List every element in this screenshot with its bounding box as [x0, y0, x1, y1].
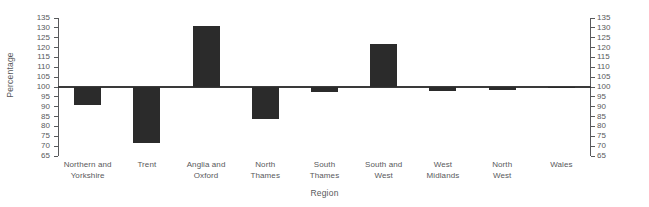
bar-wales	[548, 87, 575, 88]
y-tick-label-l-115: 115	[28, 53, 50, 61]
bar-north-west	[489, 87, 516, 90]
bar-north-thames	[252, 87, 279, 119]
y-tick-l-120	[54, 47, 58, 48]
y-tick-label-l-125: 125	[28, 34, 50, 42]
x-label-north-west: NorthWest	[473, 160, 532, 181]
y-tick-l-115	[54, 57, 58, 58]
y-tick-l-65	[54, 156, 58, 157]
x-label-line: North	[473, 160, 532, 171]
y-tick-label-l-110: 110	[28, 63, 50, 71]
y-tick-label-l-100: 100	[28, 83, 50, 91]
x-label-line: Wales	[532, 160, 591, 171]
y-tick-label-r-80: 80	[597, 122, 619, 130]
y-tick-label-l-130: 130	[28, 24, 50, 32]
x-label-anglia-and-oxford: Anglia andOxford	[176, 160, 235, 181]
y-tick-l-70	[54, 146, 58, 147]
chart-figure: Percentage Region 1351301251201151101051…	[0, 0, 649, 207]
y-tick-r-100	[591, 87, 595, 88]
y-tick-label-r-110: 110	[597, 63, 619, 71]
y-tick-l-85	[54, 116, 58, 117]
x-label-line: Oxford	[176, 171, 235, 182]
y-tick-label-r-70: 70	[597, 142, 619, 150]
x-label-line: Yorkshire	[58, 171, 117, 182]
y-tick-label-r-85: 85	[597, 113, 619, 121]
y-tick-label-l-65: 65	[28, 152, 50, 160]
y-tick-l-130	[54, 27, 58, 28]
y-tick-label-l-135: 135	[28, 14, 50, 22]
y-tick-label-r-90: 90	[597, 103, 619, 111]
plot-area: 13513012512011511010510095908580757065 1…	[58, 18, 591, 156]
y-tick-label-r-65: 65	[597, 152, 619, 160]
bar-south-and-west	[370, 44, 397, 87]
y-tick-r-70	[591, 146, 595, 147]
y-tick-r-85	[591, 116, 595, 117]
y-tick-l-105	[54, 77, 58, 78]
y-tick-r-130	[591, 27, 595, 28]
x-label-west-midlands: WestMidlands	[413, 160, 472, 181]
y-tick-r-135	[591, 18, 595, 19]
x-label-line: West	[473, 171, 532, 182]
y-tick-label-r-135: 135	[597, 14, 619, 22]
y-tick-label-r-120: 120	[597, 44, 619, 52]
y-tick-label-l-85: 85	[28, 113, 50, 121]
y-tick-r-65	[591, 156, 595, 157]
y-tick-r-110	[591, 67, 595, 68]
y-tick-label-r-95: 95	[597, 93, 619, 101]
y-tick-l-125	[54, 37, 58, 38]
y-tick-l-135	[54, 18, 58, 19]
y-tick-label-l-120: 120	[28, 44, 50, 52]
x-label-south-thames: SouthThames	[295, 160, 354, 181]
x-axis-title: Region	[0, 188, 649, 198]
x-label-south-and-west: South andWest	[354, 160, 413, 181]
x-label-line: Thames	[295, 171, 354, 182]
y-tick-l-75	[54, 136, 58, 137]
x-label-line: West	[413, 160, 472, 171]
y-tick-label-l-80: 80	[28, 122, 50, 130]
x-label-line: Thames	[236, 171, 295, 182]
bar-anglia-and-oxford	[193, 26, 220, 87]
y-tick-label-r-125: 125	[597, 34, 619, 42]
bar-northern-and-yorkshire	[74, 87, 101, 105]
x-label-line: Trent	[117, 160, 176, 171]
y-tick-l-95	[54, 96, 58, 97]
y-tick-r-75	[591, 136, 595, 137]
x-label-north-thames: NorthThames	[236, 160, 295, 181]
bar-trent	[133, 87, 160, 143]
y-tick-label-r-105: 105	[597, 73, 619, 81]
y-tick-label-l-70: 70	[28, 142, 50, 150]
y-axis-title: Percentage	[2, 0, 18, 150]
x-label-line: Northern and	[58, 160, 117, 171]
x-label-line: West	[354, 171, 413, 182]
y-tick-r-80	[591, 126, 595, 127]
x-label-line: South and	[354, 160, 413, 171]
y-tick-label-r-115: 115	[597, 53, 619, 61]
y-tick-l-110	[54, 67, 58, 68]
y-tick-label-l-95: 95	[28, 93, 50, 101]
y-tick-l-90	[54, 106, 58, 107]
bar-west-midlands	[429, 87, 456, 91]
y-tick-label-l-90: 90	[28, 103, 50, 111]
y-tick-label-l-105: 105	[28, 73, 50, 81]
y-tick-r-95	[591, 96, 595, 97]
y-tick-label-r-75: 75	[597, 132, 619, 140]
y-tick-label-r-100: 100	[597, 83, 619, 91]
y-tick-r-115	[591, 57, 595, 58]
x-label-line: Midlands	[413, 171, 472, 182]
y-tick-r-120	[591, 47, 595, 48]
bar-south-thames	[311, 87, 338, 92]
y-tick-l-100	[54, 87, 58, 88]
x-label-line: South	[295, 160, 354, 171]
y-tick-r-125	[591, 37, 595, 38]
y-tick-label-l-75: 75	[28, 132, 50, 140]
x-label-line: Anglia and	[176, 160, 235, 171]
y-tick-label-r-130: 130	[597, 24, 619, 32]
x-label-northern-and-yorkshire: Northern andYorkshire	[58, 160, 117, 181]
x-label-trent: Trent	[117, 160, 176, 171]
x-label-line: North	[236, 160, 295, 171]
y-tick-r-105	[591, 77, 595, 78]
y-tick-l-80	[54, 126, 58, 127]
x-label-wales: Wales	[532, 160, 591, 171]
y-tick-r-90	[591, 106, 595, 107]
